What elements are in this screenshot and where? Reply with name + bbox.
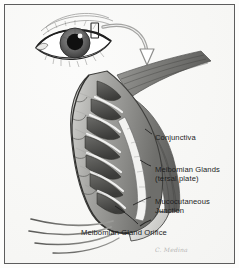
figure-frame: Conjunctiva Meibomian Glands (tersal pla… <box>4 4 235 264</box>
artist-signature: C. Medina <box>155 246 188 253</box>
label-meibomian-glands-line2: (tersal plate) <box>155 174 220 183</box>
eyelid-cross-section-group <box>29 51 211 253</box>
label-conjunctiva: Conjunctiva <box>155 133 196 142</box>
label-meibomian-glands-line1: Meibomian Glands <box>155 165 220 174</box>
illustration-figure: Conjunctiva Meibomian Glands (tersal pla… <box>0 0 239 268</box>
label-mucocutaneous-line1: Mucocutaneous <box>155 197 210 206</box>
arrowhead <box>140 49 154 65</box>
label-meibomian-gland-orifice: Meibomian Gland Orifice <box>81 228 167 237</box>
magnification-arrow <box>103 25 154 65</box>
label-mucocutaneous-junction: Mucocutaneous Junction <box>155 197 210 216</box>
illustration-artwork <box>5 5 235 264</box>
eye-inset-group <box>36 13 113 67</box>
label-conjunctiva-line1: Conjunctiva <box>155 133 196 142</box>
label-meibomian-glands: Meibomian Glands (tersal plate) <box>155 165 220 184</box>
label-mucocutaneous-line2: Junction <box>155 206 210 215</box>
label-orifice-line1: Meibomian Gland Orifice <box>81 228 167 237</box>
